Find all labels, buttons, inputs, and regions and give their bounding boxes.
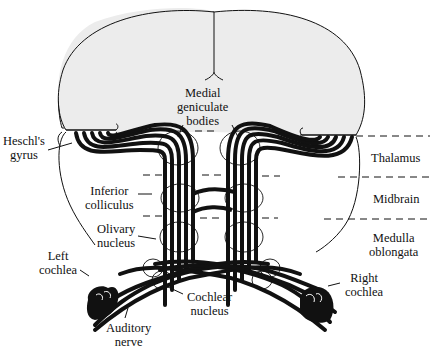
- label-line: bodies: [177, 114, 228, 128]
- auditory-pathway-diagram: Medial geniculate bodies Heschl's gyrus …: [0, 0, 430, 353]
- label-olivary-nucleus: Olivary nucleus: [97, 222, 135, 250]
- label-right-cochlea: Right cochlea: [345, 271, 383, 299]
- label-line: geniculate: [177, 100, 228, 114]
- label-cochlear-nucleus: Cochlear nucleus: [187, 290, 232, 318]
- label-line: gyrus: [3, 148, 45, 162]
- label-line: Right: [345, 271, 383, 285]
- label-line: nerve: [106, 335, 151, 349]
- label-line: Left: [39, 249, 77, 263]
- label-medial-geniculate-bodies: Medial geniculate bodies: [177, 86, 228, 128]
- label-thalamus: Thalamus: [371, 151, 420, 165]
- label-line: Midbrain: [373, 192, 420, 206]
- label-midbrain: Midbrain: [373, 192, 420, 206]
- label-line: Cochlear: [187, 290, 232, 304]
- label-line: nucleus: [187, 304, 232, 318]
- label-medulla-oblongata: Medulla oblongata: [369, 231, 418, 259]
- right-cochlea: [300, 287, 333, 323]
- label-line: cochlea: [39, 263, 77, 277]
- label-line: Medulla: [369, 231, 418, 245]
- label-auditory-nerve: Auditory nerve: [106, 321, 151, 349]
- label-line: oblongata: [369, 245, 418, 259]
- label-line: Olivary: [97, 222, 135, 236]
- label-line: Thalamus: [371, 151, 420, 165]
- label-line: cochlea: [345, 285, 383, 299]
- label-heschls-gyrus: Heschl's gyrus: [3, 134, 45, 162]
- label-line: nucleus: [97, 236, 135, 250]
- label-line: Medial: [177, 86, 228, 100]
- label-line: Auditory: [106, 321, 151, 335]
- label-line: colliculus: [85, 198, 134, 212]
- left-fiber-bundle: [76, 124, 193, 305]
- label-left-cochlea: Left cochlea: [39, 249, 77, 277]
- label-line: Inferior: [85, 184, 134, 198]
- label-line: Heschl's: [3, 134, 45, 148]
- label-inferior-colliculus: Inferior colliculus: [85, 184, 134, 212]
